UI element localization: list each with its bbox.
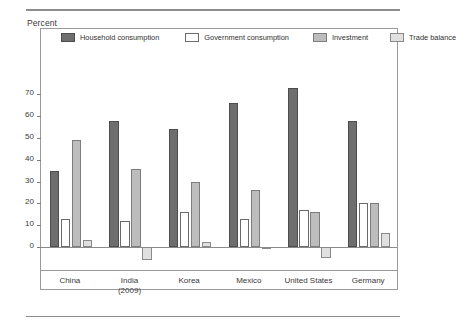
- bar-government: [359, 203, 369, 247]
- y-axis-title: Percent: [27, 18, 57, 28]
- y-axis-tick-label: 40: [12, 155, 34, 163]
- bar-trade: [381, 233, 391, 247]
- bar-government: [180, 212, 190, 247]
- y-axis-tick: [37, 182, 41, 183]
- x-axis-label: United States: [279, 276, 339, 286]
- bar-household: [109, 121, 119, 247]
- bar-household: [169, 129, 179, 247]
- x-axis-label-line1: United States: [279, 276, 339, 286]
- x-axis-label: China: [40, 276, 100, 286]
- bottom-rule: [26, 316, 400, 317]
- axis-separator-line: [41, 270, 397, 271]
- x-axis-label: Mexico: [219, 276, 279, 286]
- bar-government: [299, 210, 309, 247]
- y-axis-tick: [37, 94, 41, 95]
- y-axis-tick-label: 70: [12, 89, 34, 97]
- x-axis-label-line1: India: [100, 276, 160, 286]
- y-axis-tick: [37, 247, 41, 248]
- top-rule: [26, 9, 400, 11]
- bar-government: [61, 219, 71, 247]
- bar-trade: [321, 247, 331, 258]
- x-axis-label-line1: Mexico: [219, 276, 279, 286]
- x-axis-label: Korea: [159, 276, 219, 286]
- legend-item-trade: Trade balance: [390, 33, 456, 42]
- bar-government: [120, 221, 130, 247]
- y-axis-tick: [37, 116, 41, 117]
- x-axis-label-line1: Germany: [338, 276, 398, 286]
- plot-area: [41, 29, 397, 289]
- y-axis-tick-label: 20: [12, 198, 34, 206]
- bar-household: [229, 103, 239, 247]
- y-axis-tick-label: 30: [12, 177, 34, 185]
- bar-investment: [191, 182, 201, 247]
- x-axis-label-line1: Korea: [159, 276, 219, 286]
- x-axis-label-line1: China: [40, 276, 100, 286]
- bar-investment: [310, 212, 320, 247]
- bar-investment: [370, 203, 380, 247]
- y-axis-tick-label: 60: [12, 111, 34, 119]
- bar-household: [288, 88, 298, 247]
- zero-baseline: [41, 247, 397, 248]
- y-axis-tick-label: 0: [12, 242, 34, 250]
- legend-label-trade: Trade balance: [409, 33, 456, 42]
- x-axis-label: India(2009): [100, 276, 160, 296]
- bar-investment: [251, 190, 261, 247]
- y-axis-tick: [37, 225, 41, 226]
- bar-household: [50, 171, 60, 247]
- bar-investment: [72, 140, 82, 247]
- y-axis-tick: [37, 138, 41, 139]
- y-axis-tick-label: 50: [12, 133, 34, 141]
- bar-government: [240, 219, 250, 247]
- bar-household: [348, 121, 358, 247]
- x-axis-label-line2: (2009): [100, 286, 160, 296]
- bar-investment: [131, 169, 141, 247]
- plot-frame: Household consumption Government consump…: [40, 28, 398, 290]
- y-axis-tick: [37, 203, 41, 204]
- bar-trade: [262, 247, 272, 249]
- y-axis-tick-label: 10: [12, 220, 34, 228]
- bar-trade: [202, 242, 212, 247]
- bar-trade: [142, 247, 152, 260]
- y-axis-tick: [37, 160, 41, 161]
- bar-trade: [83, 240, 93, 247]
- x-axis-label: Germany: [338, 276, 398, 286]
